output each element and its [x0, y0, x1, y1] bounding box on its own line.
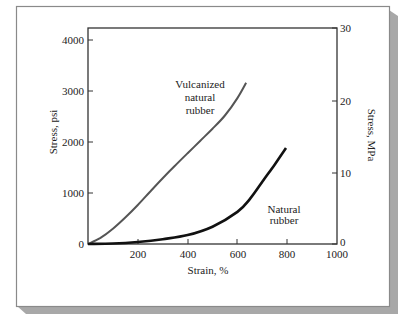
x-tick-label: 400 [180, 248, 197, 260]
y-right-tick-label: 10 [340, 167, 352, 179]
y-right-tick-label: 30 [340, 22, 352, 34]
y-tick-label: 0 [79, 238, 85, 250]
y-axis-left-title: Stress, psi [47, 110, 59, 155]
x-tick-label: 800 [279, 248, 296, 260]
y-right-tick-label: 20 [340, 95, 352, 107]
x-tick-label: 600 [230, 248, 247, 260]
x-tick-label: 1000 [326, 248, 349, 260]
annotation-line: natural [185, 91, 216, 103]
x-axis-title: Strain, % [188, 264, 229, 276]
y-axis-right-title: Stress, MPa [366, 109, 378, 162]
x-tick-label: 200 [130, 248, 147, 260]
annotation-line: rubber [270, 214, 299, 226]
y-tick-label: 1000 [62, 187, 85, 199]
figure-frame [17, 7, 390, 307]
annotation-line: Vulcanized [175, 78, 225, 90]
annotation-line: rubber [186, 104, 215, 116]
y-tick-label: 4000 [62, 34, 85, 46]
y-tick-label: 3000 [62, 85, 85, 97]
natural-annotation: Natural rubber [268, 203, 301, 226]
y-right-tick-label: 0 [340, 236, 346, 248]
y-tick-label: 2000 [62, 136, 85, 148]
chart-figure: 0 1000 2000 3000 4000 0 10 20 30 200 400… [0, 0, 403, 320]
